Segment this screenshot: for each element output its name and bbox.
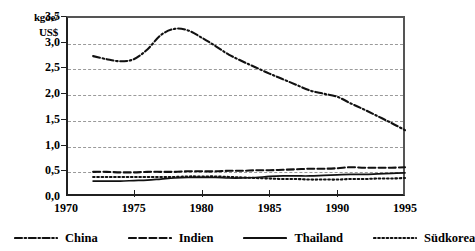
x-axis-tick-label: 1985 — [246, 202, 292, 215]
y-axis-tick-label: 0,5 — [26, 164, 60, 176]
legend-swatch-dotted-icon — [373, 232, 417, 244]
legend-swatch-solid-icon — [243, 232, 287, 244]
chart-legend: ChinaIndienThailandSüdkorea — [14, 228, 426, 248]
series-line-china — [93, 29, 405, 131]
legend-item-china[interactable]: China — [14, 232, 98, 245]
legend-label: Indien — [179, 232, 214, 245]
x-axis-tick-label: 1975 — [111, 202, 157, 215]
x-axis-tick-label: 1970 — [43, 202, 89, 215]
x-axis-tick-mark — [134, 190, 135, 197]
x-axis-tick-label: 1980 — [179, 202, 225, 215]
legend-item-südkorea[interactable]: Südkorea — [373, 232, 475, 245]
legend-swatch-dashed-icon — [128, 232, 172, 244]
series-line-indien — [93, 167, 405, 172]
x-axis-tick-label: 1990 — [314, 202, 360, 215]
y-axis-tick-label: 1,5 — [26, 113, 60, 125]
legend-item-thailand[interactable]: Thailand — [243, 232, 343, 245]
y-axis-tick-label: 2,5 — [26, 61, 60, 73]
legend-swatch-dash-dot-icon — [14, 232, 58, 244]
legend-label: Südkorea — [424, 232, 475, 245]
x-axis-tick-mark — [269, 190, 270, 197]
y-axis-tick-label: 3,0 — [26, 36, 60, 48]
legend-label: China — [65, 232, 98, 245]
y-axis-tick-label: 2,0 — [26, 87, 60, 99]
series-line-südkorea — [93, 176, 405, 179]
x-axis-tick-mark — [202, 190, 203, 197]
x-axis-tick-mark — [337, 190, 338, 197]
x-axis-tick-label: 1995 — [382, 202, 428, 215]
series-layer — [66, 16, 405, 196]
legend-label: Thailand — [294, 232, 343, 245]
legend-item-indien[interactable]: Indien — [128, 232, 214, 245]
y-axis-tick-label: 3,5 — [26, 10, 60, 22]
y-axis-tick-label: 1,0 — [26, 139, 60, 151]
